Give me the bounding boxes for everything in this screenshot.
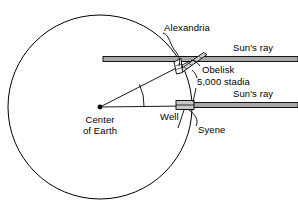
eratosthenes-diagram: Alexandria Obelisk Sun's ray Sun's ray 5… [0, 0, 298, 209]
label-obelisk: Obelisk [202, 64, 234, 75]
well-leader-line [178, 110, 184, 128]
label-sun-ray-top: Sun's ray [233, 42, 273, 53]
sun-ray-bottom-bar [177, 103, 298, 108]
label-stadia-distance: 5,000 stadia [197, 76, 250, 87]
label-center-of-earth-line1: Center [62, 114, 138, 125]
stadia-tick-line [193, 88, 196, 102]
label-alexandria: Alexandria [164, 22, 210, 33]
label-sun-ray-bottom: Sun's ray [233, 88, 273, 99]
label-center-of-earth-line2: of Earth [62, 125, 138, 136]
earth-center-dot [98, 105, 103, 110]
label-well: Well [160, 111, 179, 122]
central-angle-arc [139, 84, 144, 106]
radius-line-to-syene [100, 106, 186, 107]
diagram-canvas [0, 0, 298, 209]
label-syene: Syene [198, 124, 225, 135]
